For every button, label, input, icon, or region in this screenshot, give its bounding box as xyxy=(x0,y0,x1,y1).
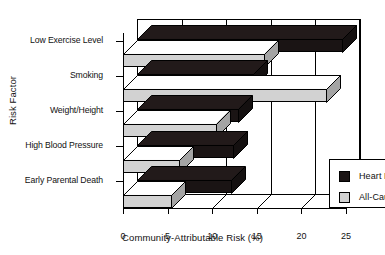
x-axis-tick xyxy=(257,208,258,214)
bar-all-cause-mortality-low-exercise-level xyxy=(123,40,278,53)
bar-top-face xyxy=(137,131,247,145)
bar-heart-disease-early-parental-death xyxy=(137,166,245,179)
legend-item-all-cause-mortality: All-Cause Mortality xyxy=(339,189,385,205)
chart-legend: Heart DiseaseAll-Cause Mortality xyxy=(329,159,385,208)
legend-item-heart-disease: Heart Disease xyxy=(339,168,385,184)
bar-top-face xyxy=(123,40,278,54)
bar-top-face xyxy=(137,95,252,109)
y-axis-label-early-parental-death: Early Parental Death xyxy=(0,175,103,185)
x-gridline-floor-diagonal xyxy=(301,195,316,210)
bar-all-cause-mortality-weight-height xyxy=(123,110,230,123)
x-axis-tick xyxy=(123,208,124,214)
bar-front-face xyxy=(123,195,172,208)
x-axis-tick xyxy=(301,208,302,214)
bar-side-face xyxy=(233,131,248,159)
bar-heart-disease-low-exercise-level xyxy=(137,25,356,38)
x-axis-title: Community-Attributable Risk (%) xyxy=(0,232,385,243)
y-axis-label-low-exercise-level: Low Exercise Level xyxy=(0,35,103,45)
x-axis-tick xyxy=(168,208,169,214)
legend-label: Heart Disease xyxy=(359,171,385,181)
bar-top-face xyxy=(137,60,267,74)
bar-top-face xyxy=(123,110,230,124)
legend-label: All-Cause Mortality xyxy=(359,192,385,202)
x-axis-tick xyxy=(212,208,213,214)
y-axis-tick xyxy=(116,146,123,147)
bar-heart-disease-weight-height xyxy=(137,95,252,108)
plot-area: 0510152025 Heart DiseaseAll-Cause Mortal… xyxy=(123,19,360,209)
bar-side-face xyxy=(326,75,341,103)
y-axis-tick xyxy=(116,181,123,182)
y-axis-category-labels: Low Exercise LevelSmokingWeight/HeightHi… xyxy=(0,0,115,255)
x-gridline-floor-diagonal xyxy=(257,195,272,210)
legend-swatch xyxy=(339,192,350,203)
y-axis-label-smoking: Smoking xyxy=(0,70,103,80)
y-axis-tick xyxy=(116,111,123,112)
bar-top-face xyxy=(137,25,356,39)
chart-figure: Risk Factor Low Exercise LevelSmokingWei… xyxy=(0,0,385,255)
y-axis-label-high-blood-pressure: High Blood Pressure xyxy=(0,140,103,150)
bar-top-face xyxy=(123,75,340,89)
bar-heart-disease-smoking xyxy=(137,60,267,73)
x-axis-tick xyxy=(346,208,347,214)
bar-side-face xyxy=(342,25,357,53)
bar-top-face xyxy=(137,166,245,180)
y-axis-label-weight-height: Weight/Height xyxy=(0,105,103,115)
bar-heart-disease-high-blood-pressure xyxy=(137,131,247,144)
bar-side-face xyxy=(238,95,253,123)
y-axis-tick xyxy=(116,41,123,42)
bar-side-face xyxy=(171,181,186,209)
legend-swatch xyxy=(339,171,350,182)
bar-all-cause-mortality-smoking xyxy=(123,75,340,88)
y-axis-tick xyxy=(116,76,123,77)
bar-all-cause-mortality-early-parental-death xyxy=(123,181,185,194)
x-gridline-floor-diagonal xyxy=(212,195,227,210)
bar-all-cause-mortality-high-blood-pressure xyxy=(123,146,193,159)
bar-side-face xyxy=(231,166,246,194)
